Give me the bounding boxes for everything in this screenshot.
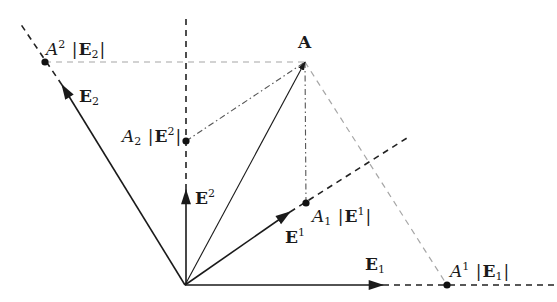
projection-a-to-a-sub1 [305,62,306,203]
label-e-sup1: E1 [285,227,305,246]
vector-a [185,62,305,285]
norm-bar-right: | [98,39,106,59]
vector-e-sup1 [185,212,290,285]
vec-e: E [154,126,167,146]
vec-sup: 1 [298,226,305,239]
vec-e: E [365,254,378,274]
point-a1-e-sub1 [443,281,450,288]
coef-sup: 2 [58,38,65,51]
vec-e: E [79,86,92,106]
vec-sub: 1 [378,263,385,276]
label-a1-e-sub1: A1 |E1| [450,261,510,282]
label-a2-e-sub2: A2 |E2| [46,39,106,60]
label-vector-a: A [298,34,311,51]
label-e-sup2: E2 [195,188,215,207]
point-a-sub2-e-sup2 [182,137,189,144]
coef-a: A [312,206,324,226]
vector-e-sub2 [62,85,185,285]
vec-sub: 2 [92,95,99,108]
coef-sub: 1 [324,215,331,228]
coef-a: A [450,261,462,281]
vec-e: E [285,227,298,247]
vec-e: E [344,206,357,226]
label-e-sub1: E1 [365,256,385,275]
coef-sub: 2 [134,135,141,148]
coef-sup: 1 [462,260,469,273]
norm-bar-right: | [174,126,182,146]
label-e-sub2: E2 [79,88,99,107]
label-a-text: A [298,32,311,52]
coef-a: A [122,126,134,146]
vec-sup: 2 [208,187,215,200]
label-a-sub2-e-sup2: A2 |E2| [122,126,182,147]
norm-bar-right: | [502,261,510,281]
projection-a-to-a-sub2 [186,62,305,141]
vector-basis-diagram: A A2 |E2| E2 A2 |E2| E2 A1 |E1| E1 E1 A1… [0,0,557,302]
vec-e: E [482,261,495,281]
vec-e: E [195,188,208,208]
projection-a-to-a1 [305,62,447,285]
point-a-sub1-e-sup1 [302,199,309,206]
coef-a: A [46,39,58,59]
norm-bar-right: | [364,206,372,226]
vec-e: E [78,39,91,59]
label-a-sub1-e-sup1: A1 |E1| [312,206,372,227]
